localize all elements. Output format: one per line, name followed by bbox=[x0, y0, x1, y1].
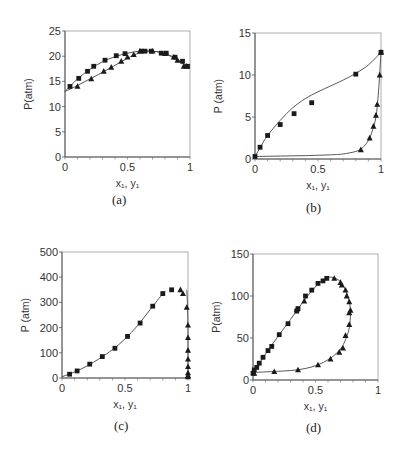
x-tick-label: 1 bbox=[375, 384, 381, 396]
y-tick-label: 200 bbox=[40, 322, 58, 334]
chart-panel-a: 051015202500.51x₁, y₁P(atm) (a) bbox=[0, 0, 203, 228]
square-marker bbox=[113, 346, 118, 351]
triangle-marker bbox=[370, 123, 376, 129]
plot-frame bbox=[62, 252, 188, 378]
y-tick-label: 400 bbox=[40, 271, 58, 283]
triangle-marker bbox=[344, 293, 350, 299]
y-tick-label: 300 bbox=[40, 296, 58, 308]
x-axis-label: x₁, y₁ bbox=[113, 398, 137, 410]
triangle-marker bbox=[185, 363, 191, 369]
square-marker bbox=[169, 287, 174, 292]
chart-d-svg: 05010015000.51x₁, y₁P(atm) bbox=[203, 228, 406, 456]
square-marker bbox=[114, 53, 119, 58]
chart-c-caption: (c) bbox=[114, 418, 128, 434]
square-marker bbox=[277, 332, 282, 337]
y-axis-label: P(atm) bbox=[210, 301, 222, 333]
triangle-marker bbox=[301, 298, 307, 304]
x-tick-label: 0.5 bbox=[117, 382, 132, 394]
x-tick-label: 0.5 bbox=[310, 163, 325, 175]
y-tick-label: 5 bbox=[55, 126, 61, 138]
square-marker bbox=[87, 362, 92, 367]
fit-curve bbox=[255, 52, 381, 156]
y-tick-label: 0 bbox=[243, 374, 249, 386]
chart-b-svg: 05101500.51x₁, y₁P (atm) bbox=[203, 0, 406, 228]
square-marker bbox=[91, 64, 96, 69]
chart-b-caption: (b) bbox=[306, 200, 321, 216]
chart-a-svg: 051015202500.51x₁, y₁P(atm) bbox=[0, 0, 203, 228]
triangle-marker bbox=[374, 101, 380, 107]
y-tick-label: 10 bbox=[49, 101, 61, 113]
square-marker bbox=[160, 291, 165, 296]
x-tick-label: 1 bbox=[378, 163, 384, 175]
triangle-marker bbox=[331, 275, 337, 281]
square-marker bbox=[100, 354, 105, 359]
y-tick-label: 100 bbox=[40, 347, 58, 359]
x-tick-label: 0 bbox=[250, 384, 256, 396]
plot-frame bbox=[255, 33, 381, 159]
x-axis-label: x₁, y₁ bbox=[306, 179, 330, 191]
triangle-marker bbox=[343, 287, 349, 293]
square-marker bbox=[292, 111, 297, 116]
square-marker bbox=[253, 154, 258, 159]
y-tick-label: 15 bbox=[239, 27, 251, 39]
y-tick-label: 50 bbox=[237, 332, 249, 344]
chart-a-caption: (a) bbox=[112, 192, 126, 208]
y-tick-label: 5 bbox=[245, 111, 251, 123]
triangle-marker bbox=[185, 356, 191, 362]
chart-panel-d: 05010015000.51x₁, y₁P(atm) (d) bbox=[203, 228, 406, 456]
y-axis-label: P (atm) bbox=[19, 298, 31, 332]
y-tick-label: 25 bbox=[49, 25, 61, 37]
square-marker bbox=[67, 372, 72, 377]
x-tick-label: 0.5 bbox=[308, 384, 323, 396]
x-axis-label: x₁, y₁ bbox=[116, 177, 140, 189]
y-tick-label: 10 bbox=[239, 69, 251, 81]
square-marker bbox=[266, 348, 271, 353]
x-tick-label: 1 bbox=[187, 161, 193, 173]
x-axis-label: x₁, y₁ bbox=[304, 400, 328, 412]
y-tick-label: 0 bbox=[245, 153, 251, 165]
chart-panel-b: 05101500.51x₁, y₁P (atm) (b) bbox=[203, 0, 406, 228]
square-marker bbox=[143, 49, 148, 54]
triangle-marker bbox=[88, 76, 94, 82]
x-tick-label: 0.5 bbox=[120, 161, 135, 173]
square-marker bbox=[258, 145, 263, 150]
square-marker bbox=[68, 84, 73, 89]
plot-frame bbox=[253, 254, 378, 380]
square-marker bbox=[138, 321, 143, 326]
x-tick-label: 0 bbox=[252, 163, 258, 175]
square-marker bbox=[316, 281, 321, 286]
triangle-marker bbox=[185, 334, 191, 340]
chart-panel-c: 010020030040050000.51x₁, y₁P (atm) (c) bbox=[0, 228, 203, 456]
triangle-marker bbox=[315, 362, 321, 368]
triangle-marker bbox=[184, 304, 190, 310]
square-marker bbox=[309, 100, 314, 105]
square-marker bbox=[150, 304, 155, 309]
x-tick-label: 0 bbox=[59, 382, 65, 394]
x-tick-label: 0 bbox=[62, 161, 68, 173]
square-marker bbox=[269, 344, 274, 349]
fit-curve bbox=[62, 291, 165, 377]
triangle-marker bbox=[346, 321, 352, 327]
square-marker bbox=[254, 365, 259, 370]
y-tick-label: 15 bbox=[49, 75, 61, 87]
square-marker bbox=[303, 294, 308, 299]
square-marker bbox=[265, 133, 270, 138]
triangle-marker bbox=[185, 322, 191, 328]
square-marker bbox=[324, 276, 329, 281]
square-marker bbox=[75, 369, 80, 374]
square-marker bbox=[257, 361, 262, 366]
square-marker bbox=[76, 76, 81, 81]
triangle-marker bbox=[373, 112, 379, 118]
fit-curve bbox=[253, 277, 351, 373]
square-marker bbox=[85, 69, 90, 74]
chart-c-svg: 010020030040050000.51x₁, y₁P (atm) bbox=[0, 228, 203, 456]
triangle-marker bbox=[346, 299, 352, 305]
fit-curve bbox=[255, 52, 381, 156]
y-tick-label: 0 bbox=[55, 151, 61, 163]
square-marker bbox=[123, 51, 128, 56]
x-tick-label: 1 bbox=[185, 382, 191, 394]
plot-frame bbox=[65, 31, 190, 157]
y-axis-label: P(atm) bbox=[22, 78, 34, 110]
y-tick-label: 500 bbox=[40, 246, 58, 258]
square-marker bbox=[180, 59, 185, 64]
